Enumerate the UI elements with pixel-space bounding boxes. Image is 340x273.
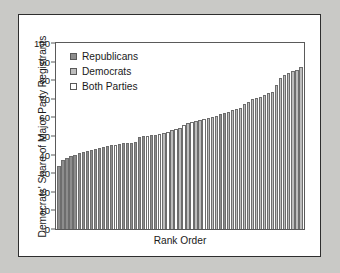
bar — [275, 85, 278, 229]
bar — [299, 67, 302, 229]
legend-item-democrats: Democrats — [70, 64, 138, 79]
bar — [186, 123, 189, 229]
legend-swatch-republicans-icon — [70, 53, 77, 60]
legend-swatch-both-parties-icon — [70, 83, 77, 90]
y-tick-label-90: 90 — [39, 56, 50, 67]
bar — [118, 144, 121, 229]
y-tick-label-40: 40 — [39, 149, 50, 160]
bar — [194, 121, 197, 229]
bar — [251, 99, 254, 229]
bar — [287, 73, 290, 229]
bar — [134, 142, 137, 229]
bar — [146, 136, 149, 229]
bar — [78, 153, 81, 229]
bar — [279, 78, 282, 229]
y-tick-label-60: 60 — [39, 112, 50, 123]
bar — [178, 128, 181, 229]
bar — [61, 160, 64, 229]
bar — [198, 120, 201, 229]
bar — [162, 133, 165, 229]
bar — [69, 156, 72, 229]
bar — [215, 116, 218, 229]
y-tick-label-30: 30 — [39, 168, 50, 179]
y-tick-label-70: 70 — [39, 93, 50, 104]
bar — [239, 108, 242, 229]
bar — [98, 148, 101, 229]
y-tick-label-80: 80 — [39, 75, 50, 86]
bar — [243, 104, 246, 229]
bar — [291, 71, 294, 229]
y-tick-label-50: 50 — [39, 131, 50, 142]
bar — [182, 125, 185, 229]
bar — [211, 117, 214, 229]
bar — [259, 97, 262, 229]
bar — [82, 152, 85, 229]
bar — [130, 143, 133, 229]
bar — [271, 92, 274, 229]
bar — [142, 136, 145, 229]
bar — [57, 166, 60, 229]
legend-label-democrats: Democrats — [82, 66, 131, 77]
bar — [73, 155, 76, 229]
bar — [102, 147, 105, 229]
bar — [94, 149, 97, 229]
bar — [235, 109, 238, 229]
bar — [283, 75, 286, 229]
bar — [231, 110, 234, 229]
chart-legend: Republicans Democrats Both Parties — [70, 49, 138, 94]
bar — [267, 93, 270, 229]
legend-item-both-parties: Both Parties — [70, 79, 138, 94]
plot-area: Republicans Democrats Both Parties — [55, 42, 305, 230]
bar — [154, 135, 157, 229]
bar — [207, 118, 210, 229]
bar — [150, 135, 153, 229]
bar — [190, 122, 193, 229]
bar — [138, 137, 141, 229]
y-tick-label-10: 10 — [39, 205, 50, 216]
bar — [114, 145, 117, 229]
bar — [158, 134, 161, 229]
bar — [90, 150, 93, 229]
bar — [227, 112, 230, 229]
bar — [166, 132, 169, 229]
bar — [295, 70, 298, 229]
bar — [110, 145, 113, 229]
bar — [126, 143, 129, 229]
bar — [122, 143, 125, 229]
x-axis-title: Rank Order — [55, 235, 305, 246]
bar — [170, 130, 173, 230]
bar — [86, 151, 89, 229]
y-axis-ticks: 1009080706050403020100 — [19, 42, 55, 230]
bar — [202, 119, 205, 229]
y-tick-label-100: 100 — [34, 38, 50, 49]
bar — [174, 129, 177, 229]
bar — [247, 102, 250, 229]
bar — [263, 95, 266, 229]
legend-swatch-democrats-icon — [70, 68, 77, 75]
figure-panel: Democrats' Share of Major Party Registra… — [18, 14, 321, 257]
y-tick-label-0: 0 — [45, 224, 50, 235]
bar — [223, 113, 226, 229]
legend-label-republicans: Republicans — [82, 51, 138, 62]
y-tick-label-20: 20 — [39, 186, 50, 197]
bar — [219, 114, 222, 229]
bar — [106, 146, 109, 229]
bar — [255, 98, 258, 229]
legend-item-republicans: Republicans — [70, 49, 138, 64]
legend-label-both-parties: Both Parties — [82, 81, 138, 92]
bar — [65, 158, 68, 229]
